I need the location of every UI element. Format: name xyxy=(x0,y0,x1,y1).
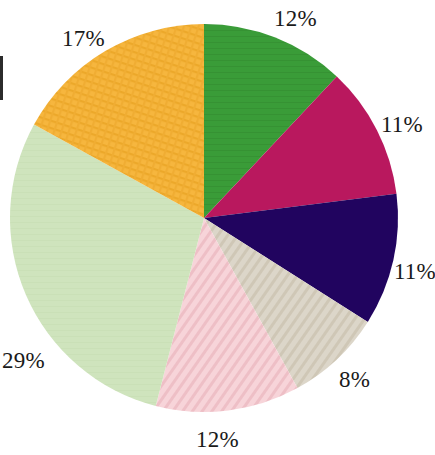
slice-label-left: 29% xyxy=(2,349,45,372)
pie-slices xyxy=(10,24,398,412)
slice-label-top: 12% xyxy=(274,7,317,30)
pie-chart: 12% 11% 11% 8% 12% 29% 17% xyxy=(0,0,435,455)
slice-label-bottom: 12% xyxy=(196,428,239,451)
slice-label-lower-right: 8% xyxy=(339,368,370,391)
slice-label-right-lower: 11% xyxy=(394,260,435,283)
pie-chart-page: 12% 11% 11% 8% 12% 29% 17% xyxy=(0,0,435,455)
slice-label-right-upper: 11% xyxy=(381,113,423,136)
slice-label-upper-left: 17% xyxy=(62,27,105,50)
